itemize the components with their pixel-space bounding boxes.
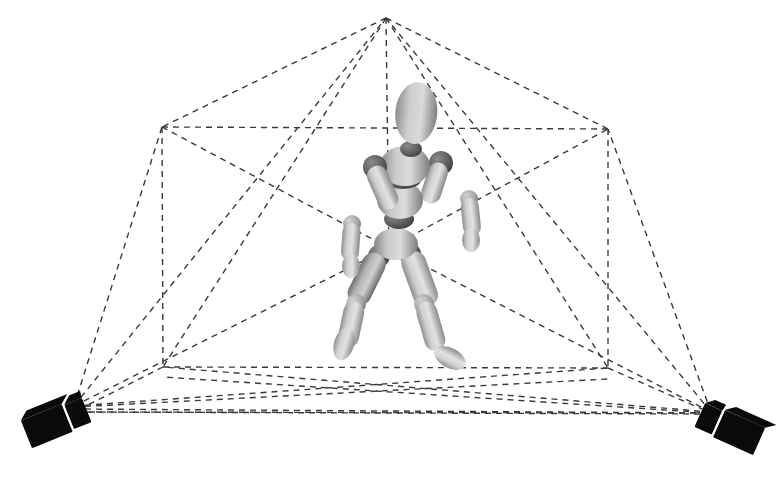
head [393,80,440,145]
articulated-wooden-mannequin [330,80,482,375]
cam-left-ray-far-top [74,368,608,406]
cam-left-ray-box-topleft [74,127,162,406]
hand-right [462,228,480,252]
ground-right-edge [608,368,711,413]
motion-capture-scene [0,0,782,481]
edge-left-vertical [162,127,163,367]
rim-left-mid-right [162,127,608,129]
rim-center-to-right [389,129,608,248]
ground-back-edge [163,367,608,368]
camera-left[interactable] [18,389,93,448]
shin-right [414,299,448,353]
pelvis-block [374,228,418,260]
mannequin-leg-right [398,243,470,375]
camera-right[interactable] [694,395,777,459]
cam-left-ray-far-mid [74,379,608,407]
ground-plane-quad [74,367,711,413]
apex-ray-top-left [162,18,386,127]
figure-canvas [0,0,782,481]
cam-right-ray-far-mid [163,377,711,413]
cam-right-ray-far-top [163,367,711,412]
hand-left [342,254,360,278]
cam-right-ray-box-topright [608,129,711,412]
mannequin-head-group [393,80,440,157]
